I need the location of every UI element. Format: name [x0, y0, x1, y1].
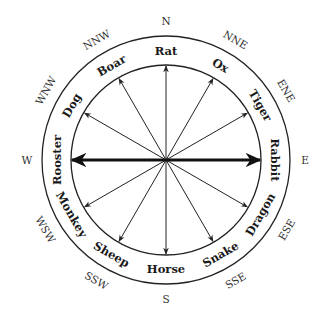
direction-label-n: N [161, 15, 170, 27]
animal-label-sheep: Sheep [91, 238, 132, 270]
animal-label-snake: Snake [200, 238, 241, 270]
animal-label-ox: Ox [210, 55, 232, 76]
arrow-tiger [166, 113, 247, 160]
direction-label-nne: NNE [221, 28, 250, 51]
animal-label-rooster: Rooster [50, 134, 64, 185]
direction-label-wnw: WNW [33, 74, 59, 107]
direction-label-s: S [162, 293, 169, 305]
animal-label-monkey: Monkey [53, 189, 91, 240]
direction-label-e: E [301, 154, 309, 166]
arrow-ox [166, 79, 213, 160]
direction-label-nnw: NNW [81, 27, 112, 52]
direction-label-ese: ESE [276, 217, 298, 243]
arrow-snake [166, 160, 213, 241]
direction-label-w: W [22, 154, 33, 166]
animal-label-dragon: Dragon [242, 190, 278, 239]
direction-label-ene: ENE [275, 77, 298, 104]
zodiac-compass-diagram: RatOxTigerRabbitDragonSnakeHorseSheepMon… [0, 0, 327, 315]
animal-label-tiger: Tiger [246, 87, 276, 125]
arrow-dog [85, 113, 166, 160]
animal-label-dog: Dog [59, 91, 84, 120]
animal-label-horse: Horse [147, 262, 185, 276]
direction-label-wsw: WSW [33, 214, 58, 245]
arrow-dragon [166, 160, 247, 207]
animal-label-rabbit: Rabbit [268, 138, 282, 182]
arrow-sheep [119, 160, 166, 241]
arrow-boar [119, 79, 166, 160]
arrow-monkey [85, 160, 166, 207]
direction-label-sse: SSE [223, 270, 248, 291]
animal-label-rat: Rat [155, 44, 178, 58]
direction-label-ssw: SSW [83, 269, 111, 292]
